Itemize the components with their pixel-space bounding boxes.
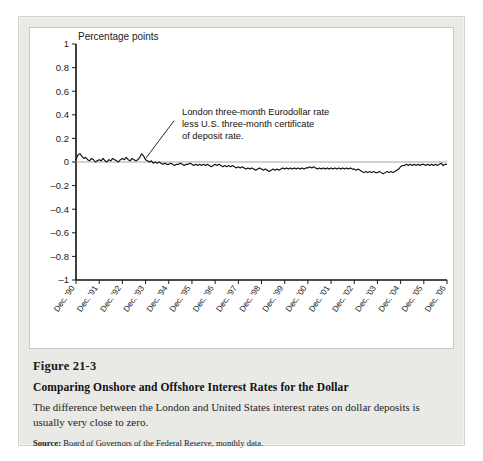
x-tick-label: Dec. '94 (145, 284, 170, 314)
figure-description: The difference between the London and Un… (33, 400, 450, 429)
y-tick-label: 0 (64, 156, 69, 167)
figure-title: Comparing Onshore and Offshore Interest … (33, 381, 450, 393)
y-tick-label: –0.6 (51, 227, 70, 238)
series-annotation-line: less U.S. three-month certificate (182, 119, 314, 129)
series-annotation-line: of deposit rate. (182, 131, 244, 141)
chart-panel: Percentage points10.80.60.40.20–0.2–0.4–… (29, 27, 454, 349)
figure-number: Figure 21-3 (33, 359, 450, 374)
x-tick-label: Dec. '05 (400, 284, 425, 314)
y-tick-label: –0.8 (51, 251, 70, 262)
x-tick-label: Dec. '90 (52, 284, 77, 314)
x-tick-label: Dec. '99 (261, 284, 286, 314)
figure-caption-block: Figure 21-3 Comparing Onshore and Offsho… (29, 357, 454, 448)
line-chart: Percentage points10.80.60.40.20–0.2–0.4–… (30, 28, 453, 348)
y-tick-label: 0.4 (56, 109, 69, 120)
x-tick-label: Dec. '03 (354, 284, 379, 314)
annotation-leader-line (146, 121, 174, 158)
y-tick-label: –0.2 (51, 180, 70, 191)
x-tick-label: Dec. '95 (168, 284, 193, 314)
figure-source: Source: Board of Governors of the Federa… (33, 438, 450, 448)
y-tick-label: –0.4 (51, 204, 70, 215)
figure-container: Percentage points10.80.60.40.20–0.2–0.4–… (18, 16, 465, 446)
x-tick-label: Dec. '97 (214, 284, 239, 314)
x-tick-label: Dec. '01 (307, 284, 332, 314)
x-tick-label: Dec. '93 (122, 284, 147, 314)
y-tick-label: 1 (64, 38, 69, 49)
series-annotation-line: London three-month Eurodollar rate (182, 107, 329, 117)
data-series-line (76, 154, 447, 174)
x-tick-label: Dec. '02 (330, 284, 355, 314)
y-axis-title: Percentage points (78, 31, 159, 42)
x-tick-label: Dec. '92 (99, 284, 124, 314)
x-tick-label: Dec. '06 (423, 284, 448, 314)
x-tick-label: Dec. '91 (75, 284, 100, 314)
x-tick-label: Dec. '04 (377, 284, 402, 314)
x-tick-label: Dec. '98 (238, 284, 263, 314)
y-tick-label: 0.6 (56, 86, 69, 97)
x-tick-label: Dec. '00 (284, 284, 309, 314)
x-tick-label: Dec. '96 (191, 284, 216, 314)
y-tick-label: 0.8 (56, 62, 69, 73)
source-text: Board of Governors of the Federal Reserv… (63, 438, 263, 448)
y-tick-label: –1 (58, 274, 69, 285)
y-tick-label: 0.2 (56, 133, 69, 144)
source-label: Source: (33, 438, 61, 448)
